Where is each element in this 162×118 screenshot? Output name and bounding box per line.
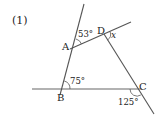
angle-label-c: 125° xyxy=(118,97,138,107)
problem-number: (1) xyxy=(12,14,28,27)
point-label-d: D xyxy=(97,25,105,36)
angle-label-b: 75° xyxy=(70,76,85,86)
angle-arc-a xyxy=(76,39,82,44)
point-label-a: A xyxy=(61,41,70,52)
point-label-c: C xyxy=(139,81,147,92)
angle-label-a: 53° xyxy=(78,29,93,39)
angle-label-x: x xyxy=(111,30,116,40)
point-label-b: B xyxy=(57,92,64,103)
geometry-diagram: (1) A 53° D x 75° B C 125° xyxy=(0,0,162,118)
